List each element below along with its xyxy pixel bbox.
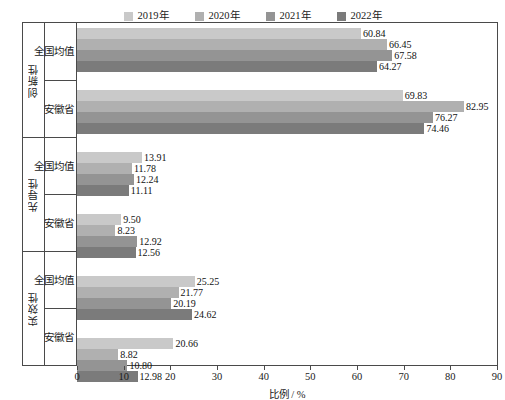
bar[interactable] <box>77 338 173 349</box>
legend-swatch-icon <box>266 12 275 21</box>
legend-label: 2019年 <box>138 11 169 22</box>
bar[interactable] <box>77 39 387 50</box>
bar[interactable] <box>77 247 136 258</box>
x-axis-tick <box>310 366 311 370</box>
category-axis-cell: 安徽省 <box>45 80 76 137</box>
bar-row: 25.25 <box>77 276 497 287</box>
group-axis-label: 先导性 <box>26 177 41 212</box>
category-axis-label: 全国均值 <box>34 46 74 57</box>
bar-value-label: 13.91 <box>144 152 167 163</box>
group-axis-cell: 先导性 <box>23 137 44 251</box>
bar-row: 9.50 <box>77 214 497 225</box>
bar[interactable] <box>77 287 179 298</box>
bar-value-label: 9.50 <box>123 214 141 225</box>
bar-row: 69.83 <box>77 90 497 101</box>
legend-item[interactable]: 2022年 <box>337 11 382 22</box>
bar[interactable] <box>77 50 392 61</box>
bar-row: 66.45 <box>77 39 497 50</box>
bar-value-label: 20.66 <box>175 338 198 349</box>
bar-value-label: 12.56 <box>138 247 161 258</box>
bar-row: 11.11 <box>77 185 497 196</box>
category-axis-label: 安徽省 <box>44 104 74 115</box>
bar-value-label: 67.58 <box>394 50 417 61</box>
group-axis-label: 创新性 <box>26 63 41 98</box>
bar-value-label: 69.83 <box>405 90 428 101</box>
bar[interactable] <box>77 163 132 174</box>
legend-label: 2020年 <box>209 11 240 22</box>
legend-item[interactable]: 2020年 <box>195 11 240 22</box>
legend-label: 2022年 <box>351 11 382 22</box>
bar-row: 21.77 <box>77 287 497 298</box>
group-axis-label: 实效性 <box>26 291 41 326</box>
category-axis-cell: 全国均值 <box>45 137 76 194</box>
legend-swatch-icon <box>337 12 346 21</box>
category-axis-label: 安徽省 <box>44 332 74 343</box>
bar[interactable] <box>77 309 192 320</box>
category-axis-label: 安徽省 <box>44 218 74 229</box>
bar[interactable] <box>77 236 137 247</box>
legend-item[interactable]: 2019年 <box>124 11 169 22</box>
bar[interactable] <box>77 349 118 360</box>
bar[interactable] <box>77 185 129 196</box>
legend-item[interactable]: 2021年 <box>266 11 311 22</box>
category-axis-cell: 安徽省 <box>45 194 76 251</box>
bar[interactable] <box>77 152 142 163</box>
bar-row: 20.66 <box>77 338 497 349</box>
bar-row: 8.23 <box>77 225 497 236</box>
x-axis-tick-label: 30 <box>212 371 223 382</box>
x-axis-tick <box>217 366 218 370</box>
bar-value-label: 25.25 <box>197 276 220 287</box>
bar[interactable] <box>77 112 433 123</box>
bar[interactable] <box>77 276 195 287</box>
legend-swatch-icon <box>124 12 133 21</box>
x-axis-tick-label: 80 <box>445 371 456 382</box>
bar-group: 25.2521.7720.1924.62 <box>77 276 497 333</box>
bar[interactable] <box>77 90 403 101</box>
bar-value-label: 8.82 <box>120 349 138 360</box>
bar[interactable] <box>77 225 115 236</box>
bar-value-label: 20.19 <box>173 298 196 309</box>
x-axis-tick <box>497 366 498 370</box>
bar-value-label: 82.95 <box>466 101 489 112</box>
chart-figure: 2019年2020年2021年2022年 60.8466.4567.5864.2… <box>0 0 505 400</box>
x-axis-tick <box>404 366 405 370</box>
bar-row: 12.24 <box>77 174 497 185</box>
bar-row: 76.27 <box>77 112 497 123</box>
bar-row: 74.46 <box>77 123 497 134</box>
bar-value-label: 64.27 <box>379 61 402 72</box>
x-axis: 比例 / % 0102030405060708090 <box>76 366 498 400</box>
bar-value-label: 12.24 <box>136 174 159 185</box>
x-axis-tick <box>357 366 358 370</box>
bar-row: 13.91 <box>77 152 497 163</box>
bar-group: 60.8466.4567.5864.27 <box>77 28 497 85</box>
bar[interactable] <box>77 101 464 112</box>
bar-value-label: 8.23 <box>117 225 135 236</box>
bar-value-label: 24.62 <box>194 309 217 320</box>
x-axis-label: 比例 / % <box>76 386 498 400</box>
x-axis-tick <box>77 366 78 370</box>
bar[interactable] <box>77 214 121 225</box>
bar-group: 9.508.2312.9212.56 <box>77 214 497 271</box>
bar-row: 12.92 <box>77 236 497 247</box>
bar[interactable] <box>77 298 171 309</box>
bar[interactable] <box>77 61 377 72</box>
bar-value-label: 66.45 <box>389 39 412 50</box>
bar[interactable] <box>77 28 361 39</box>
x-axis-tick <box>170 366 171 370</box>
bar-group: 13.9111.7812.2411.11 <box>77 152 497 209</box>
x-axis-tick-label: 0 <box>74 371 79 382</box>
category-axis-cell: 全国均值 <box>45 251 76 308</box>
bar-row: 67.58 <box>77 50 497 61</box>
category-axis-cell: 安徽省 <box>45 308 76 365</box>
bar-row: 20.19 <box>77 298 497 309</box>
legend-label: 2021年 <box>280 11 311 22</box>
x-axis-tick-label: 60 <box>352 371 363 382</box>
bar-value-label: 11.78 <box>134 163 156 174</box>
bar-row: 11.78 <box>77 163 497 174</box>
bar[interactable] <box>77 123 424 134</box>
x-axis-tick <box>124 366 125 370</box>
x-axis-tick <box>264 366 265 370</box>
bar[interactable] <box>77 174 134 185</box>
group-axis-cell: 实效性 <box>23 251 44 365</box>
x-axis-tick-label: 10 <box>118 371 129 382</box>
